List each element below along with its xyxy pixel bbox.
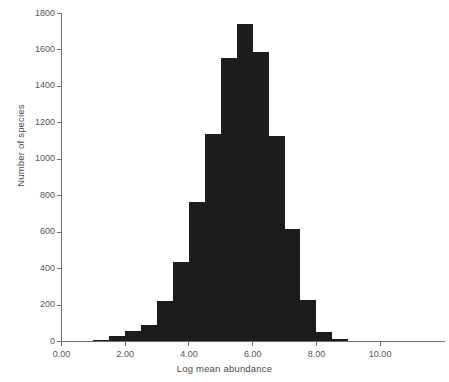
- y-tick-label: 400: [9, 263, 55, 273]
- bars-group: [93, 24, 348, 341]
- y-tick-label: 200: [9, 299, 55, 309]
- y-tick-label: 600: [9, 226, 55, 236]
- histogram-bar: [173, 262, 189, 341]
- y-tick-label: 1400: [9, 80, 55, 90]
- histogram-bar: [237, 24, 253, 341]
- histogram-bar: [253, 52, 269, 342]
- histogram-bar: [316, 332, 332, 341]
- y-tick-label: 1600: [9, 44, 55, 54]
- y-tick-label: 0: [9, 336, 55, 346]
- histogram-bar: [205, 134, 221, 342]
- y-tick-label: 1800: [9, 8, 55, 18]
- x-tick-label: 2.00: [95, 349, 155, 359]
- histogram-bar: [300, 300, 316, 342]
- plot-canvas: [0, 0, 449, 382]
- histogram-figure: Number of species Log mean abundance 020…: [0, 0, 449, 382]
- x-tick-label: 6.00: [223, 349, 283, 359]
- histogram-bar: [141, 325, 157, 341]
- y-tick-label: 1000: [9, 153, 55, 163]
- histogram-bar: [109, 336, 125, 341]
- y-tick-label: 800: [9, 190, 55, 200]
- y-tick-label: 1200: [9, 117, 55, 127]
- histogram-bar: [285, 229, 301, 341]
- histogram-bar: [125, 331, 141, 342]
- x-tick-label: 10.00: [350, 349, 410, 359]
- x-tick-label: 4.00: [159, 349, 219, 359]
- x-tick-label: 0.00: [32, 349, 92, 359]
- histogram-bar: [269, 136, 285, 342]
- histogram-bar: [157, 301, 173, 342]
- x-tick-label: 8.00: [286, 349, 346, 359]
- histogram-bar: [221, 58, 237, 341]
- histogram-bar: [189, 202, 205, 341]
